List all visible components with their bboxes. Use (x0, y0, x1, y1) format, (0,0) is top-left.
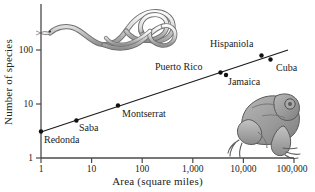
data-point-cuba (268, 57, 272, 61)
plot-canvas (0, 0, 315, 192)
point-label-saba: Saba (79, 122, 98, 133)
point-label-puerto-rico: Puerto Rico (155, 61, 203, 72)
x-tick-label-10: 10 (87, 164, 97, 174)
data-point-hispaniola (259, 53, 263, 57)
point-label-jamaica: Jamaica (228, 76, 260, 87)
point-label-hispaniola: Hispaniola (210, 38, 253, 49)
x-tick-label-1: 1 (39, 164, 44, 174)
data-point-puerto-rico (218, 70, 222, 74)
y-axis-title: Number of species (2, 17, 14, 147)
species-area-figure: 1 10 100 1 10 100 1,000 10,000 100,000 R… (0, 0, 315, 192)
data-point-saba (74, 118, 78, 122)
y-tick-label-10: 10 (24, 99, 34, 109)
x-tick-label-100000: 100,000 (277, 164, 308, 174)
frog-illustration (228, 94, 300, 158)
point-label-cuba: Cuba (276, 62, 297, 73)
point-label-redonda: Redonda (44, 134, 80, 145)
x-axis-ticks (41, 158, 294, 163)
x-tick-label-1000: 1,000 (182, 164, 203, 174)
x-axis-title: Area (square miles) (0, 175, 315, 187)
y-tick-label-1: 1 (28, 153, 33, 163)
snake-illustration (36, 12, 175, 49)
x-tick-label-100: 100 (135, 164, 149, 174)
x-tick-label-10000: 10,000 (230, 164, 256, 174)
data-point-redonda (39, 129, 43, 133)
data-point-montserrat (116, 103, 120, 107)
y-axis-ticks (36, 50, 41, 158)
y-tick-label-100: 100 (19, 45, 33, 55)
point-label-montserrat: Montserrat (122, 108, 166, 119)
